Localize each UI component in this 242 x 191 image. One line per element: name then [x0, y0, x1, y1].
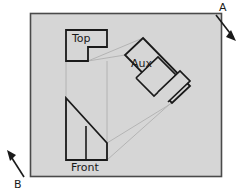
drawing-canvas: Top Front Aux A: [0, 0, 242, 191]
arrow-b-head: [7, 150, 16, 161]
arrow-a-head: [226, 30, 236, 41]
front-view-label: Front: [71, 161, 100, 174]
arrow-b-group: B: [7, 150, 24, 191]
top-view-label: Top: [71, 32, 91, 45]
technical-drawing: Top Front Aux A: [0, 0, 242, 191]
aux-view-label: Aux: [131, 57, 152, 70]
arrow-b-label: B: [14, 178, 22, 191]
sheet-border: [31, 14, 222, 177]
arrow-a-label: A: [219, 1, 227, 14]
